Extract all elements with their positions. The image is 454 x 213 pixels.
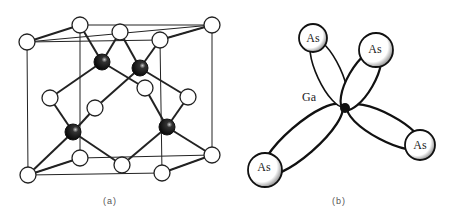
caption-a: (a) (103, 196, 117, 206)
atom-white (72, 17, 88, 33)
black-atoms (65, 54, 175, 140)
atom-black (65, 124, 81, 140)
atom-black (94, 54, 110, 70)
as-label-bottom-right: As (413, 138, 427, 152)
atom-white (204, 17, 220, 33)
atom-white (87, 100, 103, 116)
crystal-structure-figure: As As As As Ga (0, 0, 454, 213)
panel-a-unit-cell (19, 17, 220, 183)
atom-white (180, 89, 196, 105)
atom-white (112, 24, 128, 40)
panel-b-tetrahedral-bonds: As As As As Ga (248, 24, 435, 187)
atom-white (20, 167, 36, 183)
atom-white (72, 150, 88, 166)
as-label-top-right: As (368, 42, 382, 56)
atom-white (137, 80, 153, 96)
ga-label: Ga (302, 90, 317, 104)
atom-white (42, 90, 58, 106)
atom-black (132, 60, 148, 76)
atom-white (204, 147, 220, 163)
atom-white (154, 165, 170, 181)
as-label-bottom-left: As (257, 160, 271, 174)
caption-b: (b) (332, 196, 346, 206)
atom-black (159, 119, 175, 135)
atom-white (19, 34, 35, 50)
atom-white (152, 32, 168, 48)
as-label-top-left: As (306, 31, 320, 45)
atom-white (114, 157, 130, 173)
ga-center-shadow (340, 103, 350, 113)
